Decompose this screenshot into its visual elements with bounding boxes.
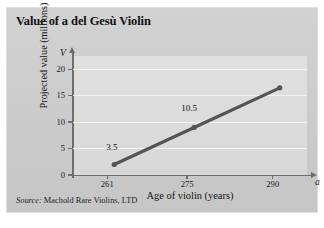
source-text: Machold Rare Violins, LTD [44, 196, 137, 205]
series-line-chart [7, 8, 324, 228]
source-note: Source: Machold Rare Violins, LTD [16, 196, 137, 205]
data-point [192, 125, 197, 130]
data-point [112, 162, 117, 167]
data-point-label: 10.5 [181, 103, 197, 113]
figure-card: Value of a del Gesù Violin V a Projected… [7, 8, 317, 212]
source-label: Source: [16, 196, 42, 205]
data-point [277, 85, 282, 90]
series-line [114, 88, 280, 165]
data-point-label: 3.5 [106, 142, 117, 152]
